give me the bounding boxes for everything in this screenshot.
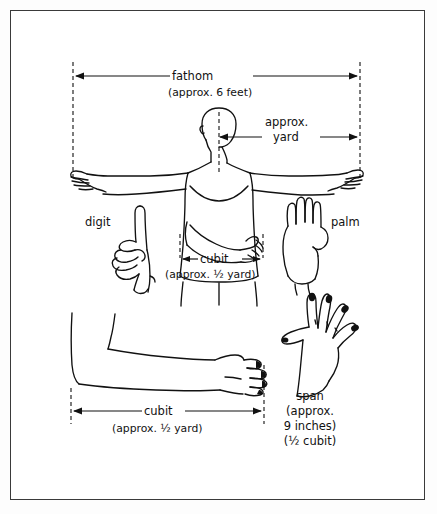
digit-label: digit: [85, 215, 111, 229]
cubit-lower-approx-label: (approx. ½ yard): [112, 422, 202, 435]
cubit-lower-label: cubit: [144, 404, 173, 418]
span-label-line3: 9 inches): [284, 419, 337, 433]
cubit-upper-approx-label: (approx. ½ yard): [165, 268, 255, 281]
fathom-dimension-arrow: [75, 73, 358, 80]
palm-hand-illustration: [283, 197, 328, 295]
measures-diagram: fathom (approx. 6 feet) approx. yard: [0, 0, 437, 514]
span-label: span: [296, 389, 324, 403]
yard-label-line2: yard: [273, 130, 299, 144]
span-label-line4: (½ cubit): [284, 434, 336, 448]
fathom-approx-label: (approx. 6 feet): [168, 86, 252, 99]
figure-root: fathom (approx. 6 feet) approx. yard: [0, 0, 437, 514]
span-label-line2: (approx.: [286, 404, 334, 418]
palm-label: palm: [331, 215, 360, 229]
yard-label-line1: approx.: [265, 115, 308, 129]
cubit-upper-label: cubit: [200, 252, 229, 266]
fathom-extension-lines: [73, 62, 360, 180]
span-hand-illustration: [282, 293, 360, 397]
digit-hand-illustration: [112, 206, 155, 293]
fathom-label: fathom: [172, 69, 213, 83]
forearm-cubit-illustration: [71, 313, 267, 396]
